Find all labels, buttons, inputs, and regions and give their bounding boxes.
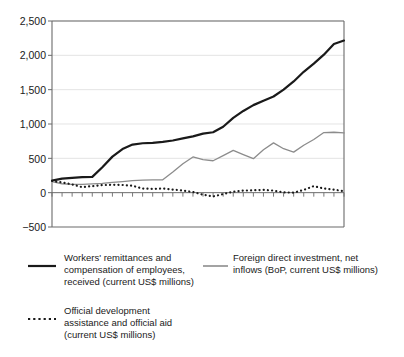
legend-label-oda: Official development assistance and offi… <box>64 305 172 342</box>
chart-figure: 2,500 2,000 1,500 1,000 500 0 −500 Worke… <box>0 0 404 357</box>
legend-item-oda: Official development assistance and offi… <box>26 305 146 350</box>
legend-label-fdi: Foreign direct investment, net inflows (… <box>233 252 378 276</box>
legend-label-remittances-line1: Workers' remittances and <box>64 252 194 264</box>
legend-label-fdi-line1: Foreign direct investment, net <box>233 252 378 264</box>
legend-label-remittances: Workers' remittances and compensation of… <box>64 252 194 289</box>
legend-label-remittances-line3: received (current US$ millions) <box>64 276 194 288</box>
plot-area <box>0 0 404 250</box>
legend-label-oda-line3: (current US$ millions) <box>64 329 172 341</box>
legend-label-oda-line1: Official development <box>64 305 172 317</box>
legend-item-remittances: Workers' remittances and compensation of… <box>26 252 146 297</box>
legend-label-remittances-line2: compensation of employees, <box>64 264 194 276</box>
legend-label-fdi-line2: inflows (BoP, current US$ millions) <box>233 264 378 276</box>
legend-label-oda-line2: assistance and official aid <box>64 317 172 329</box>
series-line-0 <box>52 41 344 181</box>
legend-item-fdi: Foreign direct investment, net inflows (… <box>201 252 241 285</box>
